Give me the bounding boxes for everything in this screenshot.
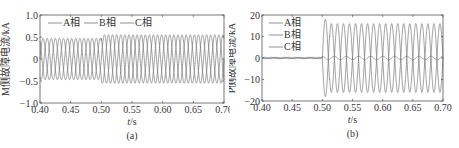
- x-axis-label: t/s: [127, 116, 137, 127]
- legend-item: C相: [135, 16, 152, 28]
- y-tick-label: 0.5: [26, 32, 39, 43]
- legend: A相B相C相: [48, 16, 152, 28]
- y-tick-label: −1.0: [20, 98, 38, 109]
- legend-item: B相: [284, 28, 301, 40]
- x-axis-label: t/s: [348, 114, 358, 125]
- y-tick-label: 1.0: [26, 10, 39, 21]
- panel-label: (a): [126, 130, 137, 142]
- x-tick-label: 0.65: [404, 102, 422, 113]
- series-line-1: [40, 35, 224, 83]
- y-tick-label: 20: [250, 10, 260, 21]
- x-tick-label: 0.50: [93, 104, 111, 115]
- x-tick-label: 0.60: [154, 104, 172, 115]
- y-tick-label: −20: [244, 96, 260, 107]
- chart-panel-a: 0.400.450.500.550.600.650.701.00.50−0.5−…: [0, 0, 230, 148]
- x-tick-label: 0.55: [344, 102, 362, 113]
- x-tick-label: 0.50: [314, 102, 332, 113]
- x-tick-label: 0.45: [283, 102, 301, 113]
- x-tick-label: 0.45: [62, 104, 80, 115]
- y-axis-label: P侧故障电流/kA: [229, 22, 237, 93]
- y-tick-label: 10: [250, 31, 260, 42]
- chart-b: 0.400.450.500.550.600.650.7020100−10−20t…: [229, 0, 459, 148]
- y-tick-label: −0.5: [20, 76, 38, 87]
- y-tick-label: 0: [33, 54, 38, 65]
- x-tick-label: 0.65: [185, 104, 203, 115]
- legend: A相B相C相: [269, 16, 301, 52]
- panel-label: (b): [347, 128, 359, 140]
- chart-a: 0.400.450.500.550.600.650.701.00.50−0.5−…: [0, 0, 230, 148]
- y-tick-label: −10: [244, 74, 260, 85]
- legend-item: A相: [284, 16, 301, 28]
- y-axis-label: M侧故障电流/kA: [0, 21, 11, 96]
- legend-item: A相: [63, 16, 80, 28]
- series-group: [40, 35, 224, 83]
- y-tick-label: 0: [255, 53, 260, 64]
- legend-item: C相: [284, 40, 301, 52]
- x-tick-label: 0.55: [123, 104, 141, 115]
- legend-item: B相: [99, 16, 116, 28]
- x-tick-label: 0.70: [434, 102, 452, 113]
- x-tick-label: 0.60: [374, 102, 392, 113]
- chart-panel-b: 0.400.450.500.550.600.650.7020100−10−20t…: [229, 0, 459, 148]
- x-tick-label: 0.70: [215, 104, 230, 115]
